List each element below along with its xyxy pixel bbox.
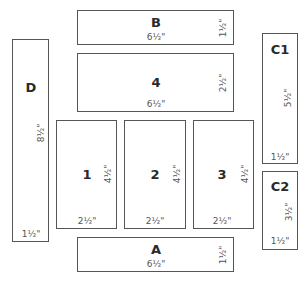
piece-c2-label: C2 [271,179,290,194]
piece-2-width: 2½" [146,216,165,226]
piece-c1-height: 5½" [283,89,293,108]
piece-b-width: 6½" [147,32,166,42]
piece-c2-width: 1½" [271,236,290,246]
piece-a: A 6½" 1½" [77,237,234,272]
piece-d-label: D [26,80,37,95]
piece-3-label: 3 [217,167,226,182]
piece-b-label: B [151,15,161,30]
piece-b: B 6½" 1½" [77,10,234,45]
piece-2-label: 2 [150,167,159,182]
piece-3: 3 4½" 2½" [193,120,254,229]
piece-a-height: 1½" [218,246,228,265]
piece-4-height: 2½" [218,74,228,93]
piece-1: 1 4½" 2½" [56,120,117,229]
piece-a-width: 6½" [147,259,166,269]
piece-c2-height: 3½" [284,203,294,222]
piece-4: 4 6½" 2½" [77,53,234,112]
piece-c2: C2 3½" 1½" [262,171,298,250]
piece-1-label: 1 [82,167,91,182]
piece-1-height: 4½" [103,165,113,184]
piece-d-height: 8½" [36,124,46,143]
piece-d: D 8½" 1½" [12,39,49,242]
piece-3-width: 2½" [213,216,232,226]
piece-2-height: 4½" [172,165,182,184]
piece-c1: C1 5½" 1½" [262,33,298,164]
piece-4-width: 6½" [147,99,166,109]
piece-2: 2 4½" 2½" [124,120,186,229]
piece-a-label: A [151,242,161,257]
piece-b-height: 1½" [218,19,228,38]
piece-c1-width: 1½" [271,152,290,162]
piece-4-label: 4 [151,75,160,90]
piece-3-height: 4½" [240,165,250,184]
piece-c1-label: C1 [271,42,290,57]
piece-d-width: 1½" [22,229,41,239]
piece-1-width: 2½" [78,216,97,226]
